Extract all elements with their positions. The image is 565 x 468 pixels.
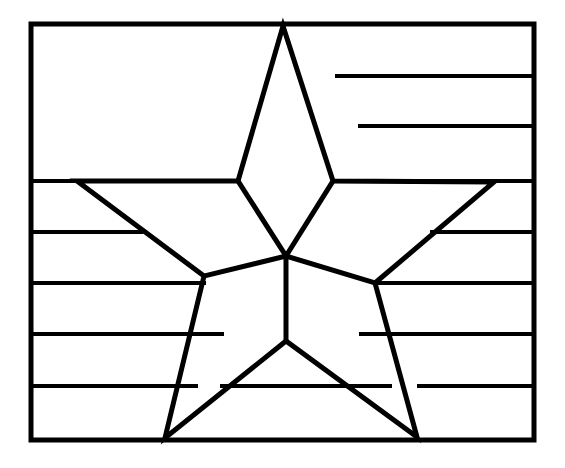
- coloring-page-canvas: [0, 0, 565, 468]
- flag-with-star-drawing: [0, 0, 565, 468]
